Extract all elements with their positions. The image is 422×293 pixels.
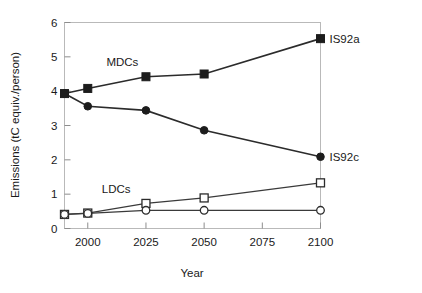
- series-line: [65, 94, 321, 157]
- data-point-open-square: [317, 179, 325, 187]
- y-axis-tick-labels: 0123456: [51, 17, 58, 235]
- data-point-filled-circle: [200, 127, 208, 135]
- y-tick-label: 4: [51, 85, 58, 97]
- group-annotation-mdcs: MDCs: [106, 56, 138, 68]
- y-tick-label: 5: [51, 51, 57, 63]
- y-axis-ticks: [65, 23, 71, 229]
- end-label-is92a: IS92a: [330, 33, 361, 45]
- series-line: [65, 39, 321, 94]
- x-axis-tick-labels: 20002025205020752100: [75, 236, 333, 248]
- data-point-open-circle: [61, 211, 69, 219]
- y-tick-label: 2: [51, 154, 57, 166]
- x-tick-label: 2025: [133, 236, 159, 248]
- data-point-open-circle: [84, 210, 92, 218]
- data-point-open-circle: [200, 207, 208, 215]
- x-axis-title: Year: [180, 267, 203, 279]
- data-point-filled-square: [200, 70, 208, 78]
- data-point-filled-square: [84, 84, 92, 92]
- data-point-filled-circle: [84, 102, 92, 110]
- data-point-filled-circle: [317, 153, 325, 161]
- y-tick-label: 3: [51, 120, 57, 132]
- data-point-filled-square: [142, 73, 150, 81]
- y-tick-label: 0: [51, 223, 57, 235]
- x-tick-label: 2075: [250, 236, 276, 248]
- group-annotation-ldcs: LDCs: [102, 183, 131, 195]
- y-tick-label: 6: [51, 17, 57, 29]
- y-axis-title: Emissions (tC equiv./person): [9, 52, 21, 198]
- data-point-open-circle: [142, 207, 150, 215]
- x-tick-label: 2000: [75, 236, 101, 248]
- data-point-filled-square: [317, 35, 325, 43]
- x-tick-label: 2050: [191, 236, 217, 248]
- x-axis-ticks: [88, 223, 321, 229]
- series-end-labels: IS92aIS92c: [330, 33, 361, 163]
- x-tick-label: 2100: [308, 236, 334, 248]
- emissions-line-chart: 0123456 20002025205020752100 MDCsLDCs IS…: [0, 0, 422, 293]
- data-point-filled-circle: [61, 90, 69, 98]
- end-label-is92c: IS92c: [330, 151, 360, 163]
- y-tick-label: 1: [51, 188, 57, 200]
- chart-canvas: 0123456 20002025205020752100 MDCsLDCs IS…: [0, 0, 422, 293]
- data-point-filled-circle: [142, 107, 150, 115]
- data-point-open-circle: [317, 207, 325, 215]
- chart-annotations: MDCsLDCs: [102, 56, 139, 195]
- data-point-open-square: [200, 194, 208, 202]
